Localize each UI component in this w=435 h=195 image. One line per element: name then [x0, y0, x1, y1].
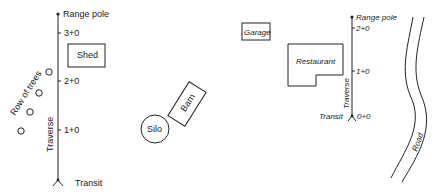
range-pole-marker-icon [350, 15, 353, 18]
tree-icon [36, 90, 42, 96]
tree-icon [18, 128, 24, 134]
tree-icon [27, 109, 33, 115]
tree-icon [46, 69, 52, 75]
traverse-label: Traverse [342, 77, 351, 109]
station-label: 2+0 [355, 24, 370, 33]
station-label: 3+0 [64, 28, 79, 38]
station-label: 2+0 [64, 76, 79, 86]
station-label: 0+0 [357, 112, 371, 121]
range-pole-label: Range pole [63, 9, 109, 19]
barn-label: Barn [179, 92, 198, 113]
range-pole-marker-icon [56, 12, 59, 15]
barn-box: Barn [168, 82, 206, 127]
transit-label: Transit [319, 112, 344, 121]
range-pole-label: Range pole [356, 13, 397, 22]
silo-label: Silo [147, 124, 162, 134]
station-label: 1+0 [356, 67, 370, 76]
station-label: 1+0 [64, 125, 79, 135]
trees-label: Row of trees [8, 68, 44, 117]
shed-label: Shed [77, 50, 98, 60]
road: Road [391, 17, 427, 182]
transit-label: Transit [75, 178, 103, 188]
survey-diagram: Range pole 3+0 2+0 1+0 Transit Traverse … [0, 0, 435, 195]
garage-label: Garage [244, 28, 271, 37]
restaurant-label: Restaurant [296, 57, 336, 66]
left-survey: Range pole 3+0 2+0 1+0 Transit Traverse … [8, 9, 206, 188]
right-survey: Range pole 2+0 1+0 0+0 Transit Traverse … [242, 13, 427, 182]
traverse-label: Traverse [45, 117, 55, 152]
